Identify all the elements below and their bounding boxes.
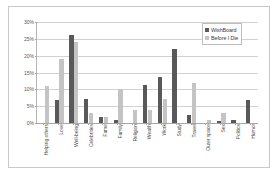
bar-group: [155, 22, 170, 123]
bar-group: [170, 22, 185, 123]
y-axis-tick-label: 10%: [24, 86, 34, 92]
x-axis-tick-label: Travel: [191, 124, 197, 137]
x-axis-tick-slot: Religion: [124, 123, 139, 167]
x-axis-tick-label: Wealth: [146, 124, 152, 139]
x-axis-tick-label: Politics: [235, 124, 241, 139]
x-axis-tick-label: Religion: [132, 124, 138, 142]
x-axis-tick-label: Humor: [250, 124, 256, 139]
x-axis-tick-slot: Wealth: [139, 123, 154, 167]
bar: [163, 99, 167, 123]
bar: [69, 35, 73, 123]
y-axis-tick-label: 0%: [27, 120, 34, 126]
bar-group: [96, 22, 111, 123]
x-axis-tick-slot: Sex: [213, 123, 228, 167]
bar: [133, 110, 137, 123]
bar-group: [243, 22, 258, 123]
chart-frame: 30%25%20%15%10%5%0% Helping othersLoveWe…: [8, 6, 270, 168]
x-axis-tick-label: Fame: [102, 124, 108, 137]
bar: [158, 77, 162, 123]
bar: [55, 100, 59, 123]
x-axis-tick-labels: Helping othersLoveWell-beingCelebritiesF…: [36, 123, 258, 167]
x-axis-tick-label: Love: [58, 124, 64, 135]
bar: [45, 86, 49, 123]
x-axis-tick-label: Outer space: [205, 124, 211, 151]
bar-group: [66, 22, 81, 123]
legend-item-wishboard: WishBoard: [205, 26, 238, 34]
x-axis-tick-label: Work: [161, 124, 167, 135]
bar-group: [125, 22, 140, 123]
bar-group: [184, 22, 199, 123]
bar: [246, 100, 250, 123]
bar: [74, 42, 78, 123]
x-axis-tick-slot: Celebrities: [80, 123, 95, 167]
bar-group: [81, 22, 96, 123]
y-axis-tick-label: 5%: [27, 103, 34, 109]
y-axis-tick-label: 30%: [24, 19, 34, 25]
x-axis-tick-slot: Helping others: [36, 123, 51, 167]
x-axis-tick-label: Well-being: [73, 124, 79, 147]
y-axis-tick-label: 20%: [24, 53, 34, 59]
bar: [84, 99, 88, 123]
legend-label-before-i-die: Before I Die: [211, 35, 238, 41]
legend-item-before-i-die: Before I Die: [205, 34, 238, 42]
x-axis-tick-slot: Politics: [228, 123, 243, 167]
x-axis-tick-slot: Humor: [242, 123, 257, 167]
x-axis-tick-label: Study: [176, 124, 182, 137]
x-axis-tick-slot: Study: [169, 123, 184, 167]
x-axis-tick-slot: Travel: [183, 123, 198, 167]
x-axis-tick-slot: Love: [51, 123, 66, 167]
legend-label-wishboard: WishBoard: [211, 27, 236, 33]
y-axis-tick-label: 25%: [24, 36, 34, 42]
y-axis-tick-label: 15%: [24, 70, 34, 76]
chart-legend: WishBoard Before I Die: [202, 23, 242, 45]
bar: [143, 85, 147, 123]
bar-group: [37, 22, 52, 123]
bar: [192, 83, 196, 123]
x-axis-tick-label: Family: [117, 124, 123, 138]
x-axis-tick-slot: Family: [110, 123, 125, 167]
x-axis-tick-label: Helping others: [43, 124, 49, 155]
bar-group: [52, 22, 67, 123]
bar: [172, 49, 176, 123]
bar: [187, 115, 191, 123]
bar: [148, 110, 152, 123]
x-axis-tick-label: Sex: [220, 124, 226, 132]
bar: [89, 113, 93, 123]
bar: [221, 113, 225, 123]
x-axis-tick-slot: Well-being: [65, 123, 80, 167]
bar: [59, 59, 63, 123]
x-axis-tick-label: Celebrities: [88, 124, 94, 147]
legend-swatch-icon-before-i-die: [205, 36, 209, 40]
bar-group: [111, 22, 126, 123]
x-axis-tick-slot: Fame: [95, 123, 110, 167]
bar-group: [140, 22, 155, 123]
x-axis-tick-slot: Outer space: [198, 123, 213, 167]
legend-swatch-icon-wishboard: [205, 28, 209, 32]
x-axis-tick-slot: Work: [154, 123, 169, 167]
bar: [118, 89, 122, 123]
